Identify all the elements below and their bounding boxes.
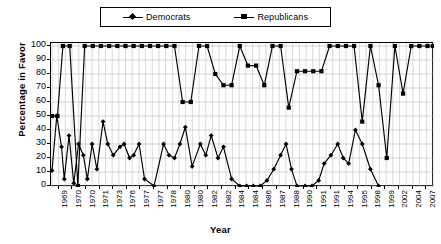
plot-area bbox=[50, 42, 433, 186]
series-republicans bbox=[51, 44, 434, 187]
y-tick-mark bbox=[47, 45, 50, 46]
y-tick-mark bbox=[47, 143, 50, 144]
y-tick-mark bbox=[47, 115, 50, 116]
x-tick-label: 1999 bbox=[388, 190, 396, 208]
x-tick-mark bbox=[71, 186, 72, 189]
x-tick-label: 2004 bbox=[415, 190, 423, 208]
x-tick-label: 1991 bbox=[320, 190, 328, 208]
x-tick-mark bbox=[85, 186, 86, 189]
x-tick-mark bbox=[289, 186, 290, 189]
x-tick-mark bbox=[357, 186, 358, 189]
diamond-marker-icon bbox=[123, 13, 143, 22]
y-tick-mark bbox=[47, 101, 50, 102]
y-tick-label: 60 bbox=[20, 96, 46, 105]
legend-item-democrats: Democrats bbox=[123, 13, 190, 22]
y-tick-label: 80 bbox=[20, 68, 46, 77]
x-tick-label: 1969 bbox=[61, 190, 69, 208]
x-tick-label: 1986 bbox=[265, 190, 273, 208]
x-tick-label: 1990 bbox=[306, 190, 314, 208]
chart-svg bbox=[51, 43, 434, 187]
y-tick-label: 0 bbox=[20, 180, 46, 189]
x-tick-label: 1976 bbox=[129, 190, 137, 208]
x-tick-label: 1973 bbox=[116, 190, 124, 208]
x-tick-label: 1995 bbox=[361, 190, 369, 208]
x-tick-label: 1988 bbox=[293, 190, 301, 208]
y-tick-mark bbox=[47, 59, 50, 60]
x-tick-mark bbox=[412, 186, 413, 189]
y-tick-label: 100 bbox=[20, 40, 46, 49]
x-tick-label: 2007 bbox=[429, 190, 437, 208]
x-tick-label: 2002 bbox=[401, 190, 409, 208]
x-tick-label: 1994 bbox=[347, 190, 355, 208]
y-tick-label: 10 bbox=[20, 166, 46, 175]
x-tick-label: 1982 bbox=[211, 190, 219, 208]
y-tick-mark bbox=[47, 171, 50, 172]
x-tick-mark bbox=[167, 186, 168, 189]
x-tick-label: 1980 bbox=[197, 190, 205, 208]
x-tick-mark bbox=[126, 186, 127, 189]
y-tick-label: 20 bbox=[20, 152, 46, 161]
chart-legend: Democrats Republicans bbox=[100, 7, 331, 27]
legend-item-republicans: Republicans bbox=[234, 13, 308, 22]
legend-label-democrats: Democrats bbox=[146, 13, 190, 22]
y-tick-label: 30 bbox=[20, 138, 46, 147]
y-tick-mark bbox=[47, 185, 50, 186]
x-tick-mark bbox=[371, 186, 372, 189]
y-tick-mark bbox=[47, 129, 50, 130]
x-tick-mark bbox=[99, 186, 100, 189]
x-tick-mark bbox=[303, 186, 304, 189]
x-tick-label: 1970 bbox=[89, 190, 97, 208]
x-tick-label: 1987 bbox=[279, 190, 287, 208]
x-tick-label: 1971 bbox=[102, 190, 110, 208]
x-tick-mark bbox=[235, 186, 236, 189]
x-tick-label: 1978 bbox=[170, 190, 178, 208]
x-tick-mark bbox=[180, 186, 181, 189]
x-tick-mark bbox=[384, 186, 385, 189]
y-tick-label: 90 bbox=[20, 54, 46, 63]
x-tick-mark bbox=[398, 186, 399, 189]
x-tick-mark bbox=[425, 186, 426, 189]
x-tick-mark bbox=[276, 186, 277, 189]
chart-container: Democrats Republicans Percentage in Favo… bbox=[0, 0, 441, 244]
x-tick-label: 1970 bbox=[75, 190, 83, 208]
x-tick-mark bbox=[248, 186, 249, 189]
x-tick-label: 1982 bbox=[225, 190, 233, 208]
series-democrats bbox=[51, 114, 381, 187]
x-tick-mark bbox=[153, 186, 154, 189]
gridlines bbox=[51, 43, 434, 187]
x-tick-mark bbox=[344, 186, 345, 189]
x-tick-mark bbox=[194, 186, 195, 189]
x-tick-label: 1984 bbox=[238, 190, 246, 208]
x-tick-mark bbox=[330, 186, 331, 189]
x-tick-mark bbox=[221, 186, 222, 189]
x-tick-label: 1977 bbox=[157, 190, 165, 208]
x-tick-label: 1998 bbox=[374, 190, 382, 208]
y-tick-label: 70 bbox=[20, 82, 46, 91]
x-tick-label: 1977 bbox=[143, 190, 151, 208]
x-tick-mark bbox=[112, 186, 113, 189]
y-tick-mark bbox=[47, 87, 50, 88]
x-tick-mark bbox=[262, 186, 263, 189]
x-tick-mark bbox=[207, 186, 208, 189]
y-tick-label: 50 bbox=[20, 110, 46, 119]
x-tick-mark bbox=[58, 186, 59, 189]
x-tick-mark bbox=[316, 186, 317, 189]
legend-label-republicans: Republicans bbox=[257, 13, 308, 22]
x-tick-label: 1980 bbox=[184, 190, 192, 208]
y-tick-mark bbox=[47, 157, 50, 158]
x-tick-label: 1991 bbox=[333, 190, 341, 208]
square-marker-icon bbox=[234, 13, 254, 22]
x-tick-label: 1984 bbox=[252, 190, 260, 208]
x-tick-mark bbox=[139, 186, 140, 189]
x-axis-title: Year bbox=[0, 224, 441, 235]
y-tick-label: 40 bbox=[20, 124, 46, 133]
y-tick-mark bbox=[47, 73, 50, 74]
